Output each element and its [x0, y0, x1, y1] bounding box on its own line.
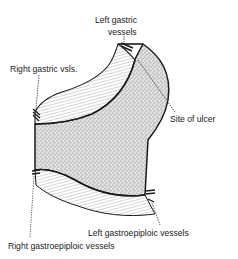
stomach-diagram: Left gastric vessels Right gastric vsls.…	[0, 0, 238, 259]
label-left-gastroepiploic: Left gastroepiploic vessels	[88, 228, 189, 238]
label-left-gastric-line1: Left gastric	[95, 15, 138, 25]
label-right-gastroepiploic: Right gastroepiploic vessels	[8, 241, 115, 251]
label-site-of-ulcer: Site of ulcer	[170, 114, 216, 124]
label-right-gastric: Right gastric vsls.	[10, 64, 77, 74]
right-gastric-leader	[36, 75, 39, 109]
right-gastroepiploic-leader	[30, 176, 34, 237]
label-left-gastric-line2: vessels	[108, 27, 137, 37]
